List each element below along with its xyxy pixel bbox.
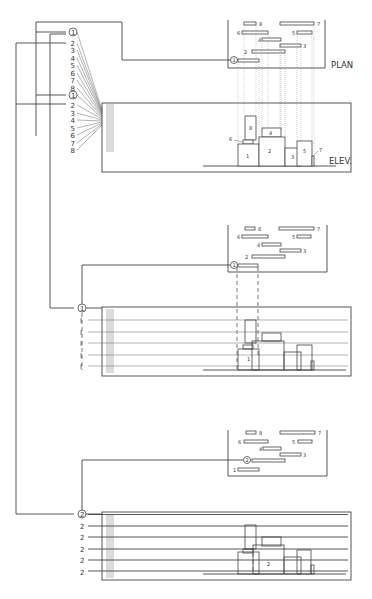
svg-text:7: 7 [318, 430, 321, 436]
stage2-elevation: 1 1 [78, 304, 351, 376]
layering-diagram: 1 2 3 4 5 6 7 8 1 2 3 4 5 6 7 8 [0, 0, 372, 599]
svg-text:7: 7 [317, 226, 320, 232]
svg-text:1: 1 [233, 57, 236, 63]
svg-text:2: 2 [80, 557, 84, 565]
svg-text:6: 6 [238, 439, 241, 445]
svg-text:I: I [80, 317, 82, 325]
svg-text:1: 1 [246, 153, 249, 159]
svg-text:I: I [80, 340, 82, 348]
svg-text:I: I [80, 352, 82, 360]
svg-text:I: I [80, 329, 82, 337]
svg-text:8: 8 [249, 125, 252, 131]
svg-text:2: 2 [246, 457, 249, 463]
svg-text:5: 5 [303, 148, 306, 154]
svg-text:3: 3 [303, 43, 306, 49]
svg-text:6: 6 [237, 30, 240, 36]
svg-text:2: 2 [80, 569, 84, 577]
svg-text:2: 2 [245, 254, 248, 260]
svg-text:6: 6 [237, 234, 240, 240]
svg-text:4: 4 [258, 37, 261, 43]
svg-text:2: 2 [267, 561, 270, 567]
svg-text:5: 5 [292, 439, 295, 445]
svg-text:8: 8 [71, 147, 75, 155]
svg-text:3: 3 [303, 452, 306, 458]
svg-text:2: 2 [80, 523, 84, 531]
svg-text:1: 1 [71, 92, 75, 100]
svg-text:2: 2 [268, 148, 271, 154]
svg-text:1: 1 [71, 29, 75, 37]
plan-label: PLAN [331, 60, 353, 70]
svg-text:1: 1 [233, 467, 236, 473]
svg-text:7: 7 [319, 147, 322, 153]
index-list-bottom: 1 2 3 4 5 6 7 8 [69, 91, 77, 155]
stage2-plan: 8 7 6 5 4 3 2 1 [82, 225, 327, 304]
left-connector-lines [16, 22, 234, 514]
svg-text:1: 1 [233, 262, 236, 268]
hatch-column [106, 105, 114, 151]
svg-text:3: 3 [303, 248, 306, 254]
svg-text:2: 2 [80, 534, 84, 542]
svg-text:5: 5 [292, 234, 295, 240]
elevation-label: ELEV. [329, 156, 352, 166]
stage3-elevation: 2 2 2 2 2 2 [78, 510, 351, 580]
svg-text:6: 6 [229, 136, 232, 142]
svg-text:2: 2 [244, 49, 247, 55]
svg-text:8: 8 [258, 226, 261, 232]
svg-text:4: 4 [269, 130, 272, 136]
svg-text:8: 8 [259, 430, 262, 436]
svg-text:4: 4 [259, 446, 262, 452]
svg-text:2: 2 [80, 546, 84, 554]
stage1-elevation: 8 4 6 1 2 3 5 7 ELEV. [102, 103, 352, 172]
svg-text:2: 2 [80, 511, 84, 519]
stage2-row-markers: I I I I I [80, 317, 82, 371]
svg-text:8: 8 [259, 21, 262, 27]
svg-text:1: 1 [80, 305, 84, 313]
fan-lines [77, 32, 102, 150]
svg-text:5: 5 [292, 30, 295, 36]
index-list-top: 1 2 3 4 5 6 7 8 [69, 28, 77, 93]
stage3-plan: 8 7 6 5 4 3 2 1 [82, 430, 327, 511]
svg-text:1: 1 [247, 356, 250, 362]
svg-text:I: I [80, 363, 82, 371]
svg-text:3: 3 [291, 154, 294, 160]
svg-text:7: 7 [317, 21, 320, 27]
stage1-plan: PLAN 8 7 6 5 4 3 2 1 [228, 20, 353, 70]
svg-text:4: 4 [257, 242, 260, 248]
